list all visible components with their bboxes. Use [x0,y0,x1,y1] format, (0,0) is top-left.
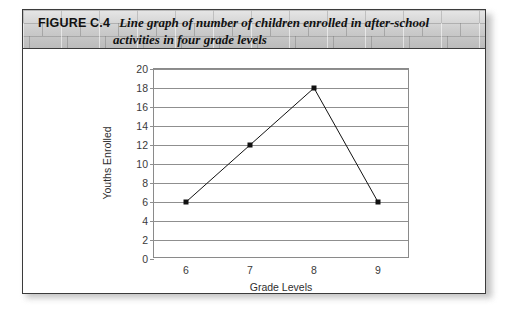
y-axis-tick-label: 10 [136,158,148,170]
figure-header-band: FIGURE C.4Line graph of number of childr… [23,10,485,49]
plot-frame: 02468101214161820 6789 [153,68,409,258]
y-axis-tick-label: 14 [136,120,148,132]
y-axis-tick-label: 16 [136,101,148,113]
x-axis-tick-label: 9 [375,264,381,276]
y-axis-tick-label: 0 [142,253,148,265]
figure-caption: FIGURE C.4Line graph of number of childr… [38,14,475,47]
x-axis-tick-label: 6 [183,264,189,276]
data-point-marker [376,200,381,205]
data-point-marker [184,200,189,205]
figure-container: FIGURE C.4Line graph of number of childr… [22,9,486,294]
x-axis-title: Grade Levels [153,281,409,293]
figure-caption-line-2: activities in four grade levels [113,32,475,48]
x-axis-tick-label: 7 [247,264,253,276]
y-axis-tick-label: 6 [142,196,148,208]
y-axis-tick-label: 12 [136,139,148,151]
y-axis-tick-label: 2 [142,234,148,246]
y-axis-tick-label: 4 [142,215,148,227]
y-axis-title: Youths Enrolled [101,126,113,199]
y-axis-tick-mark [150,259,154,260]
y-axis-tick-label: 20 [136,63,148,75]
y-axis-tick-label: 18 [136,82,148,94]
y-axis-tick-label: 8 [142,177,148,189]
line-series [154,69,410,259]
figure-number-label: FIGURE C.4 [38,16,110,30]
x-axis-tick-label: 8 [311,264,317,276]
chart-area: Youths Enrolled 02468101214161820 6789 G… [23,49,485,294]
data-point-marker [312,86,317,91]
data-point-marker [248,143,253,148]
figure-caption-line-1: Line graph of number of children enrolle… [119,15,429,30]
